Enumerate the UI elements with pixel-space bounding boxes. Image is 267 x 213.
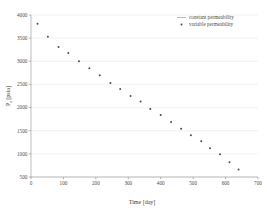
- data-point: [140, 101, 142, 103]
- y-tick-label: 1500: [17, 128, 28, 134]
- y-axis-ticks: 5001000150020002500300035004000: [17, 12, 31, 180]
- data-point: [130, 95, 132, 97]
- legend: constant permeability variable permeabil…: [177, 14, 234, 27]
- y-tick-label: 2500: [17, 81, 28, 87]
- x-tick-label: 100: [60, 180, 68, 186]
- data-point: [170, 121, 172, 123]
- data-point: [36, 23, 38, 25]
- data-point: [149, 108, 151, 110]
- data-series-variable-permeability: [36, 23, 239, 171]
- data-point: [47, 36, 49, 38]
- legend-label-variable-permeability: variable permeability: [189, 21, 234, 27]
- y-tick-label: 4000: [17, 12, 28, 18]
- data-point: [58, 46, 60, 48]
- scatter-plot: 5001000150020002500300035004000 01002003…: [0, 0, 267, 213]
- data-point: [160, 114, 162, 116]
- data-point: [67, 52, 69, 54]
- data-point: [228, 161, 230, 163]
- data-point: [219, 153, 221, 155]
- data-point: [99, 74, 101, 76]
- y-tick-label: 500: [20, 174, 28, 180]
- data-point: [119, 88, 121, 90]
- data-point: [78, 60, 80, 62]
- data-point: [200, 140, 202, 142]
- x-tick-label: 700: [254, 180, 262, 186]
- x-tick-label: 400: [157, 180, 165, 186]
- x-tick-label: 0: [30, 180, 33, 186]
- data-point: [209, 147, 211, 149]
- y-axis-title: Pr [psia]: [5, 86, 13, 106]
- axis-lines: [31, 15, 258, 177]
- data-point: [238, 169, 240, 171]
- y-tick-label: 3500: [17, 35, 28, 41]
- data-point: [180, 128, 182, 130]
- x-axis-title: Time [day]: [129, 199, 156, 206]
- y-axis-title-unit: [psia]: [5, 86, 12, 101]
- y-tick-label: 1000: [17, 151, 28, 157]
- x-tick-label: 300: [124, 180, 132, 186]
- data-point: [109, 82, 111, 84]
- svg-text:Pr [psia]: Pr [psia]: [5, 86, 13, 106]
- gridlines: [31, 15, 258, 177]
- x-tick-label: 200: [92, 180, 100, 186]
- y-tick-label: 3000: [17, 58, 28, 64]
- x-axis-ticks: 0100200300400500600700: [30, 177, 263, 186]
- data-point: [88, 67, 90, 69]
- legend-marker-variable-permeability: [181, 24, 183, 26]
- legend-label-constant-permeability: constant permeability: [189, 14, 234, 20]
- x-tick-label: 600: [222, 180, 230, 186]
- x-tick-label: 500: [189, 180, 197, 186]
- y-tick-label: 2000: [17, 104, 28, 110]
- data-point: [190, 134, 192, 136]
- chart-figure: 5001000150020002500300035004000 01002003…: [0, 0, 267, 213]
